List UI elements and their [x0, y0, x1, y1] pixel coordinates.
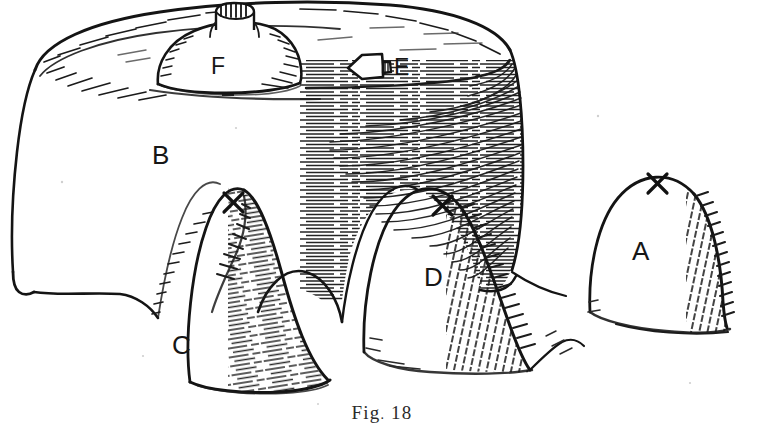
figure-container: B F E C D A Fig. 18 [0, 0, 764, 430]
label-B: B [152, 142, 169, 168]
label-A: A [632, 238, 649, 264]
dome-F-group [158, 3, 302, 96]
mound-B-base-left [34, 292, 158, 318]
label-F: F [211, 55, 225, 78]
mound-B-outline [12, 70, 35, 272]
caption-prefix: Fig [351, 402, 380, 423]
mound-D-right-notch [530, 340, 584, 370]
label-C: C [172, 332, 191, 358]
mound-illustration [0, 0, 764, 430]
figure-caption: Fig. 18 [0, 402, 764, 424]
mound-A-group [588, 177, 740, 336]
caption-number: 18 [391, 402, 412, 423]
caption-separator: . [380, 407, 385, 422]
label-D: D [424, 264, 443, 290]
mound-B-outline-left-foot [13, 272, 34, 294]
flask-neck-icon [383, 62, 391, 73]
label-E: E [394, 56, 409, 79]
dome-F-base-nick [222, 92, 234, 96]
mound-B-right-skirt [512, 272, 566, 296]
mound-D-foot-strokes [366, 338, 420, 369]
mound-B-valley-left [158, 182, 220, 318]
dome-F-outline [158, 22, 302, 84]
mound-D-outline-left [364, 189, 460, 352]
